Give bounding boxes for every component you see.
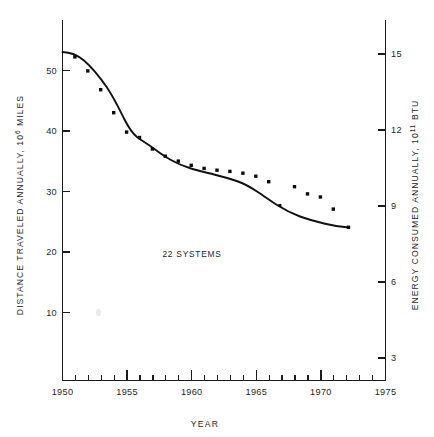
plot-annotation: 22 SYSTEMS [162, 249, 221, 259]
x-tick-label: 1965 [245, 387, 267, 397]
x-tick-label: 1970 [310, 387, 332, 397]
x-tick-label: 1960 [181, 387, 203, 397]
left-tick-label: 10 [46, 308, 57, 318]
data-point [215, 169, 218, 172]
right-tick-label: 6 [391, 277, 396, 287]
data-point [267, 180, 270, 183]
data-point [190, 164, 193, 167]
data-point [151, 147, 154, 150]
data-point [112, 111, 115, 114]
right-tick-label: 9 [391, 201, 396, 211]
data-point [347, 226, 350, 229]
left-tick-label: 20 [46, 247, 57, 257]
data-point [73, 55, 76, 58]
right-axis-title-tail: BTU [410, 100, 420, 124]
chart-figure: 50 40 30 20 10 15 12 9 6 3 [0, 0, 434, 437]
data-point [306, 192, 309, 195]
data-point [241, 172, 244, 175]
data-point-outlier [278, 204, 281, 207]
x-axis-tick-labels: 1950 1955 1960 1965 1970 1975 [52, 387, 397, 397]
data-point-markers [73, 55, 350, 229]
data-point [125, 130, 128, 133]
data-point [319, 195, 322, 198]
left-axis-title: DISTANCE TRAVELED ANNUALLY, 106 MILES [14, 95, 25, 315]
data-point [228, 170, 231, 173]
data-point [254, 175, 257, 178]
left-tick-label: 30 [46, 187, 57, 197]
left-axis-title-tail: MILES [15, 95, 25, 129]
left-tick-label: 40 [46, 126, 57, 136]
left-tick-label: 50 [46, 66, 57, 76]
line-chart-canvas: 50 40 30 20 10 15 12 9 6 3 [0, 0, 434, 437]
right-axis-title: ENERGY CONSUMED ANNUALLY, 1011 BTU [409, 100, 420, 310]
data-point [332, 207, 335, 210]
data-point [164, 155, 167, 158]
scan-artifact-smudge [96, 309, 101, 316]
data-point [177, 159, 180, 162]
data-point [293, 185, 296, 188]
data-point [99, 88, 102, 91]
right-axis-tick-labels: 15 12 9 6 3 [391, 49, 402, 363]
right-axis-title-main: ENERGY CONSUMED ANNUALLY, 10 [410, 132, 420, 310]
left-axis-title-main: DISTANCE TRAVELED ANNUALLY, 10 [15, 134, 25, 315]
left-axis-tick-labels: 50 40 30 20 10 [46, 66, 57, 318]
left-axis-ticks [63, 71, 71, 313]
right-axis-ticks [378, 54, 386, 358]
right-tick-label: 15 [391, 49, 402, 59]
x-axis-ticks [63, 370, 386, 381]
data-point [86, 69, 89, 72]
right-tick-label: 3 [391, 353, 396, 363]
right-tick-label: 12 [391, 125, 402, 135]
x-axis-title: YEAR [191, 419, 220, 429]
x-tick-label: 1950 [52, 387, 74, 397]
trend-curve [63, 52, 349, 228]
x-tick-label: 1975 [375, 387, 397, 397]
data-point [138, 136, 141, 139]
x-tick-label: 1955 [116, 387, 138, 397]
right-axis-title-exponent: 11 [409, 124, 416, 133]
data-point [202, 167, 205, 170]
